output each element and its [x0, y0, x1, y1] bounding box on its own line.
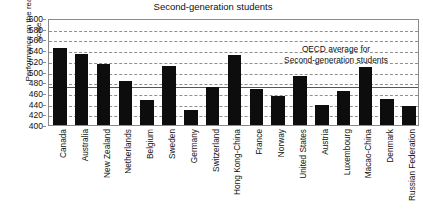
x-axis-label-slot: Germany	[179, 127, 201, 212]
x-axis-label: Luxembourg	[343, 129, 351, 175]
x-axis-label: Macao-China	[364, 129, 372, 178]
y-axis-tick-400: 400	[29, 122, 43, 131]
plot-area	[48, 19, 419, 126]
x-axis-label-slot: Canada	[48, 127, 70, 212]
bar	[315, 105, 329, 125]
x-axis-label: New Zealand	[103, 129, 111, 178]
x-axis-label-slot: France	[244, 127, 266, 212]
bar	[140, 100, 154, 125]
x-axis-label: Switzerland	[212, 129, 220, 172]
x-axis-label: Denmark	[386, 129, 394, 163]
x-axis-label-slot: Sweden	[157, 127, 179, 212]
x-axis-label-slot: Belgium	[135, 127, 157, 212]
x-axis-label: Germany	[190, 129, 198, 163]
y-axis-tick-mark-400	[43, 126, 46, 127]
bar	[119, 81, 133, 125]
y-axis-tick-540: 540	[29, 47, 43, 56]
bar	[228, 55, 242, 125]
x-axis-label: Austria	[321, 129, 329, 155]
bar	[184, 110, 198, 125]
x-axis-label: Norway	[277, 129, 285, 157]
y-axis-tick-580: 580	[29, 26, 43, 35]
x-axis-label-slot: New Zealand	[92, 127, 114, 212]
x-axis-label-slot: United States	[288, 127, 310, 212]
bar	[97, 64, 111, 125]
y-axis-tick-440: 440	[29, 101, 43, 110]
y-axis-tick-labels: 600580560540520500480460440420400	[0, 19, 46, 126]
y-axis-tick-mark-460	[43, 94, 46, 95]
x-axis-label-slot: Netherlands	[113, 127, 135, 212]
bar	[337, 91, 351, 125]
y-axis-tick-480: 480	[29, 79, 43, 88]
y-axis-tick-460: 460	[29, 90, 43, 99]
x-axis-label-slot: Austria	[310, 127, 332, 212]
y-axis-tick-mark-500	[43, 73, 46, 74]
y-axis-tick-mark-420	[43, 115, 46, 116]
bar	[380, 99, 394, 125]
y-axis-tick-560: 560	[29, 36, 43, 45]
y-axis-tick-mark-520	[43, 62, 46, 63]
x-axis-label-slot: Australia	[70, 127, 92, 212]
x-axis-label-slot: Switzerland	[201, 127, 223, 212]
y-axis-tick-420: 420	[29, 111, 43, 120]
chart-figure: Second-generation students Performance o…	[0, 0, 423, 212]
x-axis-label: Hong Kong-China	[233, 129, 241, 195]
bar	[293, 76, 307, 125]
bar	[75, 54, 89, 125]
y-axis-tick-520: 520	[29, 58, 43, 67]
x-axis-label-slot: Macao-China	[354, 127, 376, 212]
bar	[206, 87, 220, 125]
x-axis-label-slot: Denmark	[375, 127, 397, 212]
y-axis-tick-mark-480	[43, 83, 46, 84]
x-axis-label: France	[255, 129, 263, 155]
y-axis-tick-500: 500	[29, 69, 43, 78]
bar	[53, 48, 67, 125]
x-axis-label: Sweden	[168, 129, 176, 159]
x-axis-label-slot: Luxembourg	[332, 127, 354, 212]
y-axis-tick-600: 600	[29, 15, 43, 24]
x-axis-label-slot: Norway	[266, 127, 288, 212]
y-axis-tick-mark-440	[43, 105, 46, 106]
x-axis-label: Netherlands	[124, 129, 132, 174]
x-axis-label-slot: Russian Federation	[397, 127, 419, 212]
x-axis-label-slot: Hong Kong-China	[223, 127, 245, 212]
bar	[250, 89, 264, 125]
x-axis-label: United States	[299, 129, 307, 179]
x-axis-label: Belgium	[146, 129, 154, 159]
bar	[271, 96, 285, 125]
bar	[402, 106, 416, 125]
x-axis-label: Australia	[81, 129, 89, 161]
bar	[162, 66, 176, 125]
x-axis-label: Canada	[59, 129, 67, 158]
bar	[359, 67, 373, 125]
y-axis-tick-mark-580	[43, 30, 46, 31]
x-axis-label: Russian Federation	[408, 129, 416, 201]
chart-title: Second-generation students	[48, 1, 378, 13]
y-axis-tick-mark-540	[43, 51, 46, 52]
bars-layer	[49, 20, 418, 125]
y-axis-tick-mark-560	[43, 40, 46, 41]
x-axis-category-labels: CanadaAustraliaNew ZealandNetherlandsBel…	[48, 127, 419, 212]
y-axis-tick-mark-600	[43, 19, 46, 20]
